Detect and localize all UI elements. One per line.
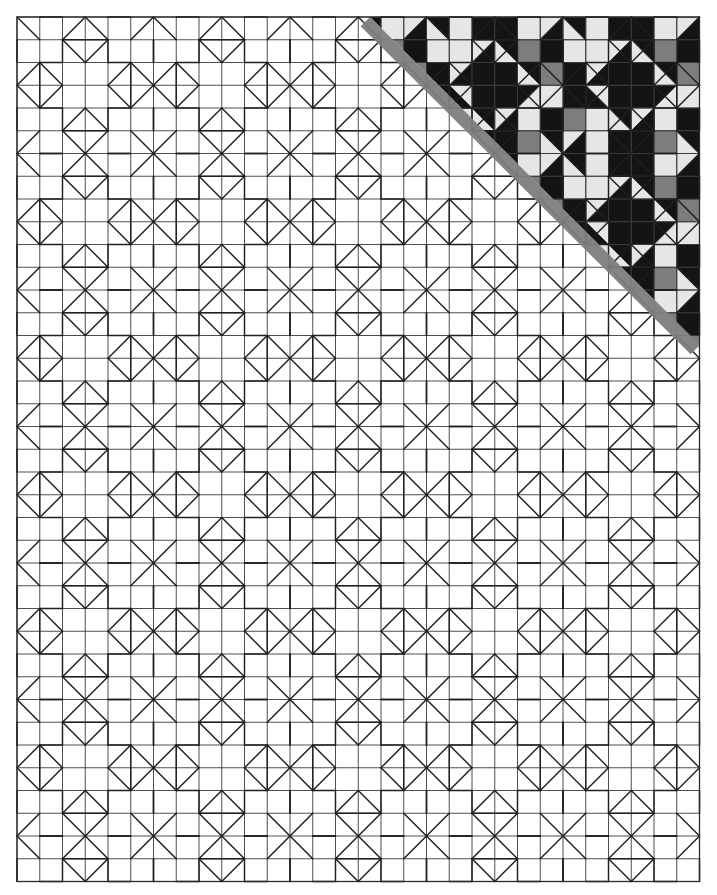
motif-diagonal xyxy=(427,472,450,495)
motif-diagonal xyxy=(631,586,654,609)
patch xyxy=(290,176,313,199)
motif-diagonal xyxy=(63,245,86,268)
motif-diagonal xyxy=(131,609,154,632)
motif-diagonal xyxy=(199,836,222,859)
motif-diagonal xyxy=(17,540,40,563)
motif-diagonal xyxy=(609,404,632,427)
motif-diagonal xyxy=(540,472,563,495)
motif-diagonal xyxy=(63,290,86,313)
motif-diagonal xyxy=(472,700,495,723)
patch xyxy=(609,358,632,381)
motif-diagonal xyxy=(290,131,313,154)
motif-diagonal xyxy=(563,358,586,381)
motif-diagonal xyxy=(17,609,40,632)
motif-diagonal xyxy=(449,222,472,245)
motif-diagonal xyxy=(154,154,177,177)
motif-diagonal xyxy=(131,813,154,836)
motif-diagonal xyxy=(563,290,586,313)
motif-diagonal xyxy=(586,609,609,632)
patch xyxy=(313,245,336,268)
motif-diagonal xyxy=(131,131,154,154)
motif-diagonal xyxy=(63,654,86,677)
motif-diagonal xyxy=(63,40,86,63)
motif-diagonal xyxy=(176,745,199,768)
motif-diagonal xyxy=(154,222,177,245)
motif-diagonal xyxy=(540,290,563,313)
motif-diagonal xyxy=(495,700,518,723)
motif-diagonal xyxy=(63,563,86,586)
patch xyxy=(495,199,518,222)
patch xyxy=(449,131,472,154)
motif-diagonal xyxy=(154,768,177,791)
patch xyxy=(518,290,541,313)
motif-diagonal xyxy=(63,17,86,40)
motif-diagonal xyxy=(518,745,541,768)
motif-diagonal xyxy=(267,267,290,290)
motif-diagonal xyxy=(404,700,427,723)
motif-diagonal xyxy=(404,609,427,632)
motif-diagonal xyxy=(381,768,404,791)
motif-diagonal xyxy=(449,472,472,495)
motif-diagonal xyxy=(518,609,541,632)
motif-diagonal xyxy=(108,358,131,381)
patch xyxy=(495,222,518,245)
motif-diagonal xyxy=(518,199,541,222)
patch xyxy=(404,108,427,131)
motif-diagonal xyxy=(358,154,381,177)
motif-diagonal xyxy=(290,768,313,791)
motif-diagonal xyxy=(108,631,131,654)
motif-diagonal xyxy=(85,108,108,131)
motif-diagonal xyxy=(85,131,108,154)
motif-diagonal xyxy=(472,154,495,177)
motif-diagonal xyxy=(563,472,586,495)
motif-diagonal xyxy=(267,631,290,654)
motif-diagonal xyxy=(17,700,40,723)
patch xyxy=(586,131,609,154)
motif-diagonal xyxy=(131,472,154,495)
motif-diagonal xyxy=(313,199,336,222)
motif-diagonal xyxy=(654,745,677,768)
motif-diagonal xyxy=(267,404,290,427)
quilt-diagram xyxy=(0,0,717,895)
motif-diagonal xyxy=(245,495,268,518)
motif-diagonal xyxy=(154,631,177,654)
patch xyxy=(404,381,427,404)
motif-diagonal xyxy=(358,290,381,313)
motif-diagonal xyxy=(267,427,290,450)
motif-diagonal xyxy=(495,813,518,836)
motif-diagonal xyxy=(654,495,677,518)
motif-diagonal xyxy=(40,631,63,654)
motif-diagonal xyxy=(313,745,336,768)
patch xyxy=(631,336,654,359)
motif-diagonal xyxy=(586,768,609,791)
patch xyxy=(631,85,654,108)
patch xyxy=(336,336,359,359)
motif-diagonal xyxy=(336,17,359,40)
motif-diagonal xyxy=(17,745,40,768)
motif-diagonal xyxy=(290,745,313,768)
motif-diagonal xyxy=(63,267,86,290)
motif-diagonal xyxy=(677,836,700,859)
patch xyxy=(290,381,313,404)
motif-diagonal xyxy=(609,449,632,472)
patch xyxy=(381,154,404,177)
motif-diagonal xyxy=(381,222,404,245)
motif-diagonal xyxy=(290,427,313,450)
motif-diagonal xyxy=(17,131,40,154)
motif-diagonal xyxy=(85,40,108,63)
motif-diagonal xyxy=(381,85,404,108)
motif-diagonal xyxy=(176,358,199,381)
motif-diagonal xyxy=(472,654,495,677)
motif-diagonal xyxy=(154,85,177,108)
motif-diagonal xyxy=(631,381,654,404)
motif-diagonal xyxy=(404,358,427,381)
motif-diagonal xyxy=(108,745,131,768)
motif-diagonal xyxy=(222,677,245,700)
motif-diagonal xyxy=(63,791,86,814)
motif-diagonal xyxy=(108,768,131,791)
patch xyxy=(518,40,541,63)
motif-diagonal xyxy=(358,813,381,836)
patch xyxy=(313,154,336,177)
motif-diagonal xyxy=(404,336,427,359)
motif-diagonal xyxy=(176,199,199,222)
